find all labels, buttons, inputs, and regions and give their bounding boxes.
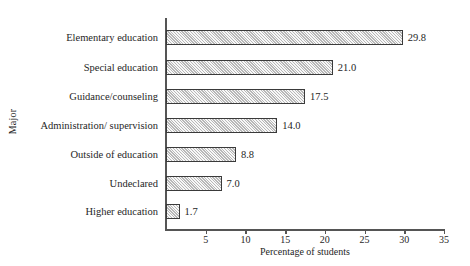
bar [166,118,277,133]
category-label: Undeclared [0,178,158,190]
bar [166,30,403,45]
x-axis-tick-label: 30 [389,234,419,245]
bar-value-label: 8.8 [241,149,254,160]
bar [166,176,222,191]
bar-value-label: 14.0 [282,120,300,131]
category-label: Outside of education [0,149,158,161]
category-label: Elementary education [0,32,158,44]
bar [166,60,333,75]
bar-value-label: 1.7 [185,206,198,217]
bar [166,147,236,162]
x-axis-tick-label: 25 [350,234,380,245]
bar [166,204,180,219]
category-label: Higher education [0,206,158,218]
x-axis-title: Percentage of students [165,246,445,257]
category-label: Special education [0,62,158,74]
x-axis-tick-label: 20 [310,234,340,245]
bar-value-label: 21.0 [338,62,356,73]
bar-value-label: 7.0 [227,178,240,189]
bar-value-label: 29.8 [408,32,426,43]
x-axis-tick-label: 10 [230,234,260,245]
bar [166,89,305,104]
category-label: Guidance/counseling [0,91,158,103]
bar-chart: Major Elementary educationSpecial educat… [0,0,470,266]
category-label: Administration/ supervision [0,120,158,132]
bar-value-label: 17.5 [310,91,328,102]
x-axis-tick-label: 35 [429,234,459,245]
x-axis-tick-label: 5 [191,234,221,245]
x-axis-tick-label: 15 [270,234,300,245]
